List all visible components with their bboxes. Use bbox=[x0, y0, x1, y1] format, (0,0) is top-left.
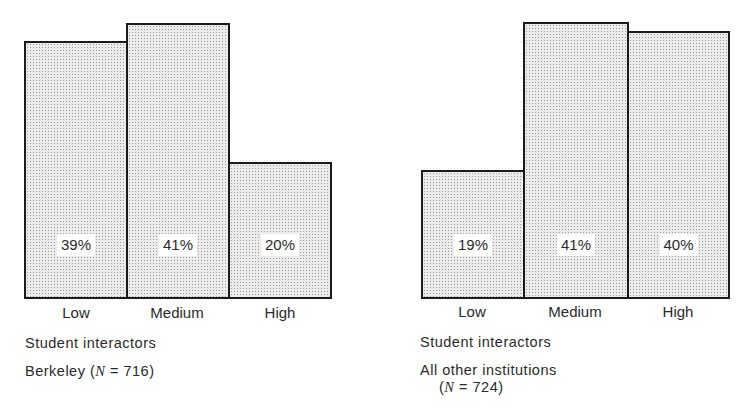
berkeley-caption-line1: Student interactors bbox=[25, 334, 156, 352]
other-value-medium: 41% bbox=[557, 234, 595, 256]
berkeley-value-low: 39% bbox=[57, 234, 95, 256]
other-value-high: 40% bbox=[659, 234, 697, 256]
other-category-medium: Medium bbox=[525, 303, 625, 321]
berkeley-category-low: Low bbox=[26, 304, 126, 322]
other-bar-medium: 41% bbox=[523, 22, 629, 299]
berkeley-caption-prefix: Berkeley ( bbox=[25, 363, 95, 379]
other-caption-line1: Student interactors bbox=[420, 333, 551, 351]
other-category-high: High bbox=[628, 303, 728, 321]
other-category-low: Low bbox=[422, 303, 522, 321]
berkeley-bar-high: 20% bbox=[228, 162, 332, 299]
other-caption-line2: All other institutions bbox=[420, 361, 557, 379]
berkeley-bar-low: 39% bbox=[24, 41, 128, 299]
other-bar-high: 40% bbox=[627, 31, 730, 299]
berkeley-value-medium: 41% bbox=[159, 234, 197, 256]
berkeley-category-high: High bbox=[230, 304, 330, 322]
berkeley-value-high: 20% bbox=[261, 234, 299, 256]
other-value-low: 19% bbox=[454, 234, 492, 256]
other-caption-n: N bbox=[444, 379, 454, 395]
berkeley-category-medium: Medium bbox=[127, 304, 227, 322]
other-caption-suffix: = 724) bbox=[455, 379, 504, 395]
berkeley-caption-line2: Berkeley (N = 716) bbox=[25, 362, 155, 380]
berkeley-caption-n: N bbox=[95, 363, 105, 379]
berkeley-bar-medium: 41% bbox=[126, 23, 230, 299]
berkeley-caption-suffix: = 716) bbox=[105, 363, 154, 379]
other-caption-line3: (N = 724) bbox=[439, 378, 504, 396]
other-bar-low: 19% bbox=[421, 170, 525, 299]
